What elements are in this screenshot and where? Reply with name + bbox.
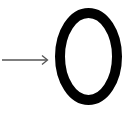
- right-arrow-icon: [2, 54, 50, 66]
- zero-symbol: [55, 8, 122, 105]
